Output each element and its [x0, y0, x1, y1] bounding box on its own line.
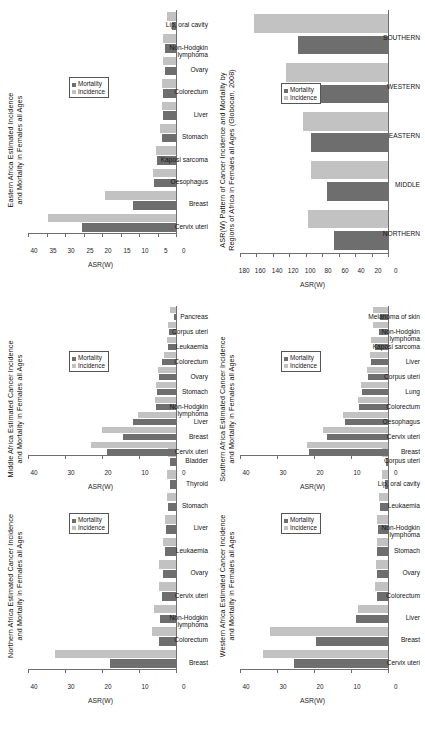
legend-label-incidence: Incidence: [290, 524, 317, 531]
legend-item-incidence: Incidence: [284, 524, 317, 532]
bar-incidence: [159, 560, 176, 569]
legend-swatch-incidence: [284, 96, 288, 100]
category-label: Ovary: [362, 569, 420, 576]
category-label: Cervix uteri: [150, 223, 208, 230]
legend-item-incidence: Incidence: [72, 362, 105, 370]
bar-incidence: [263, 650, 388, 659]
value-tick: [176, 670, 177, 673]
bar-incidence: [163, 538, 176, 547]
bar-incidence: [162, 102, 176, 111]
chart-panel-regions: ASR(W) Pattern of Cancer Incidence and M…: [214, 4, 422, 316]
value-tick-label: 180: [230, 267, 250, 274]
category-label: Non-Hodgkinlymphoma: [150, 44, 208, 59]
value-tick: [277, 456, 278, 459]
chart-title-middle: Middle Africa Estimated Cancer Incidence…: [6, 304, 24, 514]
category-label: Leukaemia: [150, 547, 208, 554]
bar-incidence: [376, 560, 388, 569]
bar-incidence: [270, 627, 388, 636]
value-tick: [314, 670, 315, 673]
category-label: Ovary: [150, 66, 208, 73]
value-tick-label: 25: [73, 247, 93, 254]
chart-title-line1: ASR(W) Pattern of Cancer Incidence and M…: [218, 8, 227, 312]
value-tick-label: 30: [55, 469, 75, 476]
value-tick-label: 15: [110, 247, 130, 254]
legend-label-incidence: Incidence: [78, 88, 105, 95]
value-tick-label: 40: [18, 683, 38, 690]
value-tick: [256, 254, 257, 257]
bar-incidence: [159, 582, 176, 591]
axis-label-asr: ASR(W): [81, 261, 121, 268]
category-label: Non-Hodgkinlymphoma: [362, 329, 420, 344]
legend-label-mortality: Mortality: [290, 354, 314, 361]
legend-label-incidence: Incidence: [290, 362, 317, 369]
category-label: Pancreas: [150, 314, 208, 321]
chart-southern: Southern Africa Estimated Cancer Inciden…: [214, 300, 422, 518]
category-label: Colorectum: [150, 359, 208, 366]
legend-swatch-incidence: [72, 526, 76, 530]
chart-title-line1: Middle Africa Estimated Cancer Incidence: [6, 304, 15, 514]
value-tick: [158, 234, 159, 237]
legend-swatch-incidence: [284, 364, 288, 368]
value-tick: [306, 254, 307, 257]
axis-label-asr: ASR(W): [293, 483, 333, 490]
value-tick: [102, 234, 103, 237]
axis-label-asr: ASR(W): [293, 281, 333, 288]
category-label: Non-Hodgkinlymphoma: [150, 614, 208, 629]
legend-item-mortality: Mortality: [72, 354, 105, 362]
value-tick: [139, 234, 140, 237]
value-tick-label: 40: [18, 469, 38, 476]
category-label: Liver: [362, 359, 420, 366]
category-label: Stomach: [362, 547, 420, 554]
category-label: Corpus uteri: [150, 329, 208, 336]
value-tick: [65, 456, 66, 459]
category-label: Kaposi sarcoma: [150, 156, 208, 163]
value-tick-label: 10: [129, 683, 149, 690]
legend-swatch-mortality: [72, 519, 76, 523]
value-tick: [65, 234, 66, 237]
chart-title-line1: Southern Africa Estimated Cancer Inciden…: [218, 304, 227, 514]
legend-swatch-incidence: [284, 526, 288, 530]
category-label: Breast: [362, 449, 420, 456]
bar-incidence: [48, 214, 176, 223]
value-tick: [314, 456, 315, 459]
legend-swatch-mortality: [284, 519, 288, 523]
category-label: Stomach: [150, 389, 208, 396]
value-tick: [240, 670, 241, 673]
legend-swatch-incidence: [72, 364, 76, 368]
bar-incidence: [286, 63, 388, 82]
category-label: Lung: [362, 389, 420, 396]
value-tick: [121, 234, 122, 237]
legend: MortalityIncidence: [281, 351, 321, 372]
value-tick: [102, 670, 103, 673]
bar-incidence: [308, 210, 388, 229]
category-label: Ovary: [150, 569, 208, 576]
value-tick-label: 0: [166, 247, 186, 254]
value-tick-label: 20: [92, 247, 112, 254]
value-tick: [388, 456, 389, 459]
bar-incidence: [303, 112, 389, 131]
legend-item-mortality: Mortality: [284, 354, 317, 362]
bar-incidence: [358, 605, 388, 614]
category-label: Kaposi sarcoma: [362, 344, 420, 351]
value-tick: [351, 670, 352, 673]
value-tick-label: 40: [18, 247, 38, 254]
value-tick: [351, 456, 352, 459]
category-label: Colorectum: [362, 592, 420, 599]
value-tick: [28, 234, 29, 237]
value-tick-label: 40: [230, 469, 250, 476]
category-label: Breast: [362, 636, 420, 643]
value-tick: [65, 670, 66, 673]
bar-incidence: [377, 538, 388, 547]
legend: MortalityIncidence: [69, 351, 109, 372]
value-tick: [273, 254, 274, 257]
category-label: Oesophagus: [150, 178, 208, 185]
category-label: Non-Hodgkinlymphoma: [362, 524, 420, 539]
legend: MortalityIncidence: [281, 83, 321, 104]
value-tick-label: 10: [129, 469, 149, 476]
legend-swatch-mortality: [284, 357, 288, 361]
value-tick: [102, 456, 103, 459]
category-label: Cervix uteri: [150, 592, 208, 599]
bar-incidence: [55, 650, 176, 659]
bar-incidence: [156, 146, 176, 155]
category-label: MIDDLE: [362, 181, 420, 188]
